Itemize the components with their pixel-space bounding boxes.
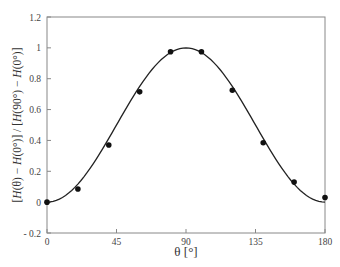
x-axis-title: θ [°]: [174, 244, 197, 259]
y-axis-title: [H(θ) − H(0°)] / [H(90°) − H(0°)]: [11, 48, 24, 203]
x-tick-label: 45: [112, 237, 122, 247]
data-point: [168, 49, 174, 55]
x-tick-label: 0: [45, 237, 50, 247]
data-point: [106, 142, 112, 148]
y-tick-label: 0.4: [29, 136, 41, 146]
data-point: [230, 87, 236, 93]
data-point: [322, 195, 328, 201]
y-tick-label: 1: [36, 43, 41, 53]
y-tick-label: 0: [36, 198, 41, 208]
chart: - 0.200.20.40.60.811.2 04590135180 θ [°]…: [0, 0, 340, 267]
y-tick-label: - 0.2: [24, 229, 42, 239]
data-point: [260, 140, 266, 146]
data-point: [291, 179, 297, 185]
y-tick-label: 0.8: [29, 74, 41, 84]
x-tick-label: 135: [248, 237, 263, 247]
y-tick-label: 0.2: [29, 167, 41, 177]
x-tick-label: 180: [318, 237, 333, 247]
data-point: [75, 186, 81, 192]
fit-curve: [47, 48, 325, 202]
data-point: [137, 89, 143, 95]
y-tick-label: 0.6: [29, 105, 41, 115]
data-point: [199, 49, 205, 55]
data-points: [44, 49, 328, 205]
plot-frame: [47, 17, 325, 233]
data-point: [44, 199, 50, 205]
y-tick-label: 1.2: [29, 13, 41, 23]
